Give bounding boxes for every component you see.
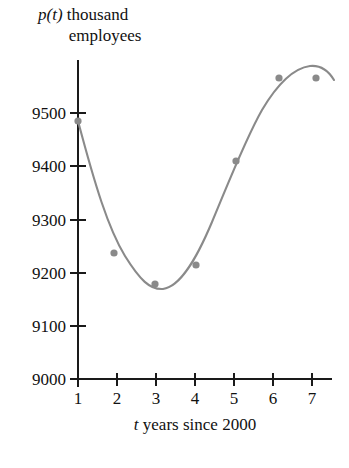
data-point-t6	[275, 74, 282, 81]
data-point-t3	[151, 280, 158, 287]
x-tick-label-3: 3	[146, 390, 166, 407]
x-tick-label-6: 6	[263, 390, 283, 407]
data-point-t7	[312, 74, 319, 81]
y-tick-label-9300: 9300	[4, 212, 66, 229]
x-axis-title: t years since 2000	[70, 414, 320, 435]
y-tick-label-9400: 9400	[4, 158, 66, 175]
chart-figure: p(t) thousand employees	[0, 0, 349, 468]
y-tick-label-9000: 9000	[4, 371, 66, 388]
x-tick-label-2: 2	[107, 390, 127, 407]
x-tick-label-5: 5	[224, 390, 244, 407]
data-point-t2	[110, 249, 117, 256]
x-tick-label-4: 4	[185, 390, 205, 407]
data-point-t1	[74, 117, 81, 124]
data-point-t4	[192, 261, 199, 268]
y-tick-label-9500: 9500	[4, 105, 66, 122]
y-tick-label-9100: 9100	[4, 318, 66, 335]
y-tick-label-9200: 9200	[4, 265, 66, 282]
x-tick-label-7: 7	[302, 390, 322, 407]
plot-canvas	[0, 0, 349, 468]
x-tick-label-1: 1	[68, 390, 88, 407]
data-point-t5	[232, 157, 239, 164]
x-axis-title-rest: years since 2000	[139, 415, 257, 434]
